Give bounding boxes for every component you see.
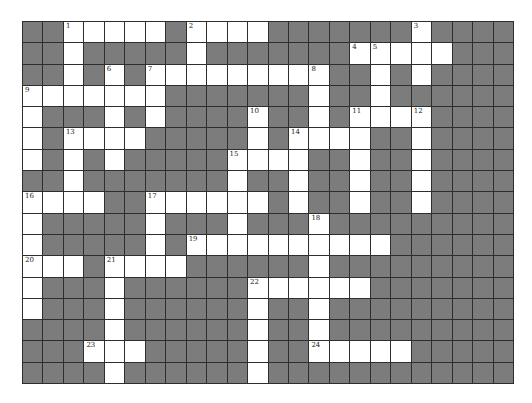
crossword-cell[interactable] <box>105 128 124 148</box>
crossword-cell[interactable] <box>309 278 328 298</box>
crossword-cell[interactable] <box>105 86 124 106</box>
crossword-cell[interactable] <box>84 192 103 212</box>
crossword-cell[interactable] <box>412 128 431 148</box>
crossword-cell[interactable] <box>125 341 144 361</box>
crossword-cell[interactable] <box>330 235 349 255</box>
crossword-cell[interactable] <box>248 22 267 42</box>
crossword-cell[interactable]: 4 <box>350 43 369 63</box>
crossword-cell[interactable]: 24 <box>309 341 328 361</box>
crossword-cell[interactable] <box>146 107 165 127</box>
crossword-cell[interactable] <box>289 235 308 255</box>
crossword-cell[interactable] <box>23 299 42 319</box>
crossword-cell[interactable] <box>207 22 226 42</box>
crossword-cell[interactable] <box>146 235 165 255</box>
crossword-cell[interactable]: 20 <box>23 256 42 276</box>
crossword-cell[interactable] <box>350 128 369 148</box>
crossword-cell[interactable] <box>146 214 165 234</box>
crossword-cell[interactable] <box>146 22 165 42</box>
crossword-cell[interactable]: 13 <box>64 128 83 148</box>
crossword-cell[interactable] <box>125 128 144 148</box>
crossword-cell[interactable] <box>289 171 308 191</box>
crossword-cell[interactable] <box>125 22 144 42</box>
crossword-cell[interactable] <box>23 235 42 255</box>
crossword-cell[interactable]: 1 <box>64 22 83 42</box>
crossword-cell[interactable] <box>391 43 410 63</box>
crossword-cell[interactable] <box>371 86 390 106</box>
crossword-cell[interactable] <box>269 278 288 298</box>
crossword-cell[interactable] <box>166 256 185 276</box>
crossword-cell[interactable] <box>289 65 308 85</box>
crossword-cell[interactable]: 17 <box>146 192 165 212</box>
crossword-cell[interactable]: 14 <box>289 128 308 148</box>
crossword-cell[interactable] <box>350 150 369 170</box>
crossword-cell[interactable] <box>350 278 369 298</box>
crossword-cell[interactable] <box>64 86 83 106</box>
crossword-cell[interactable] <box>391 107 410 127</box>
crossword-cell[interactable] <box>146 86 165 106</box>
crossword-cell[interactable]: 11 <box>350 107 369 127</box>
crossword-cell[interactable] <box>248 235 267 255</box>
crossword-cell[interactable] <box>84 22 103 42</box>
crossword-cell[interactable] <box>412 171 431 191</box>
crossword-cell[interactable] <box>289 192 308 212</box>
crossword-cell[interactable]: 16 <box>23 192 42 212</box>
crossword-cell[interactable] <box>207 65 226 85</box>
crossword-cell[interactable] <box>289 150 308 170</box>
crossword-cell[interactable] <box>207 192 226 212</box>
crossword-cell[interactable] <box>228 171 247 191</box>
crossword-cell[interactable] <box>248 65 267 85</box>
crossword-cell[interactable] <box>350 341 369 361</box>
crossword-cell[interactable]: 3 <box>412 22 431 42</box>
crossword-cell[interactable] <box>166 192 185 212</box>
crossword-cell[interactable] <box>23 278 42 298</box>
crossword-cell[interactable] <box>105 363 124 383</box>
crossword-cell[interactable] <box>228 22 247 42</box>
crossword-cell[interactable] <box>64 171 83 191</box>
crossword-cell[interactable] <box>125 256 144 276</box>
crossword-cell[interactable] <box>84 128 103 148</box>
crossword-cell[interactable] <box>207 235 226 255</box>
crossword-cell[interactable] <box>350 171 369 191</box>
crossword-cell[interactable] <box>146 256 165 276</box>
crossword-cell[interactable] <box>64 256 83 276</box>
crossword-cell[interactable]: 5 <box>371 43 390 63</box>
crossword-cell[interactable] <box>309 107 328 127</box>
crossword-cell[interactable] <box>105 22 124 42</box>
crossword-cell[interactable] <box>269 150 288 170</box>
crossword-cell[interactable]: 7 <box>146 65 165 85</box>
crossword-cell[interactable] <box>309 320 328 340</box>
crossword-cell[interactable] <box>105 107 124 127</box>
crossword-cell[interactable] <box>309 235 328 255</box>
crossword-cell[interactable]: 19 <box>187 235 206 255</box>
crossword-cell[interactable] <box>64 192 83 212</box>
crossword-cell[interactable] <box>43 192 62 212</box>
crossword-cell[interactable] <box>350 192 369 212</box>
crossword-cell[interactable] <box>105 341 124 361</box>
crossword-cell[interactable] <box>105 278 124 298</box>
crossword-cell[interactable] <box>248 150 267 170</box>
crossword-cell[interactable] <box>412 150 431 170</box>
crossword-cell[interactable] <box>309 128 328 148</box>
crossword-cell[interactable] <box>23 214 42 234</box>
crossword-cell[interactable] <box>43 86 62 106</box>
crossword-cell[interactable] <box>187 43 206 63</box>
crossword-cell[interactable] <box>309 299 328 319</box>
crossword-cell[interactable] <box>228 235 247 255</box>
crossword-cell[interactable] <box>412 65 431 85</box>
crossword-cell[interactable]: 10 <box>248 107 267 127</box>
crossword-cell[interactable] <box>330 128 349 148</box>
crossword-cell[interactable] <box>187 65 206 85</box>
crossword-cell[interactable]: 18 <box>309 214 328 234</box>
crossword-cell[interactable] <box>330 341 349 361</box>
crossword-cell[interactable] <box>248 299 267 319</box>
crossword-cell[interactable] <box>371 341 390 361</box>
crossword-cell[interactable] <box>269 65 288 85</box>
crossword-cell[interactable] <box>309 256 328 276</box>
crossword-cell[interactable] <box>371 65 390 85</box>
crossword-cell[interactable] <box>412 192 431 212</box>
crossword-cell[interactable] <box>309 86 328 106</box>
crossword-cell[interactable] <box>330 278 349 298</box>
crossword-cell[interactable]: 6 <box>105 65 124 85</box>
crossword-cell[interactable]: 15 <box>228 150 247 170</box>
crossword-cell[interactable] <box>64 65 83 85</box>
